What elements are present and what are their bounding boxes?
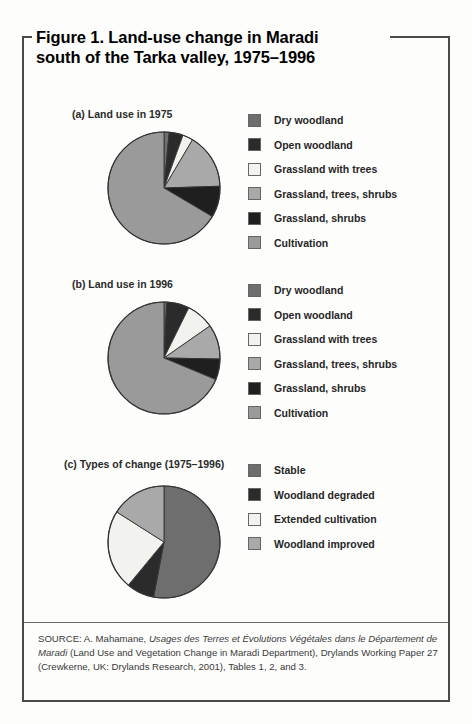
legend-a: Dry woodlandOpen woodlandGrassland with … — [248, 108, 397, 255]
legend-row: Grassland with trees — [248, 157, 397, 182]
figure-title: Figure 1. Land-use change in Maradi sout… — [36, 27, 386, 67]
source-divider — [24, 622, 448, 623]
legend-row: Open woodland — [248, 133, 397, 158]
legend-swatch-icon — [248, 537, 261, 550]
chart-b-caption: (b) Land use in 1996 — [72, 278, 173, 290]
pie-chart-b — [106, 300, 222, 416]
legend-label: Grassland, trees, shrubs — [274, 358, 397, 370]
source-rest: (Land Use and Vegetation Change in Marad… — [38, 647, 438, 672]
legend-label: Cultivation — [274, 237, 328, 249]
legend-swatch-icon — [248, 138, 261, 151]
legend-row: Woodland improved — [248, 532, 377, 557]
legend-label: Dry woodland — [274, 114, 343, 126]
legend-b: Dry woodlandOpen woodlandGrassland with … — [248, 278, 397, 425]
legend-row: Extended cultivation — [248, 507, 377, 532]
legend-swatch-icon — [248, 187, 261, 200]
legend-row: Grassland, trees, shrubs — [248, 352, 397, 377]
legend-swatch-icon — [248, 333, 261, 346]
legend-swatch-icon — [248, 382, 261, 395]
pie-chart-c — [106, 484, 222, 600]
legend-swatch-icon — [248, 357, 261, 370]
legend-swatch-icon — [248, 308, 261, 321]
legend-swatch-icon — [248, 114, 261, 127]
source-note: SOURCE: A. Mahamane, Usages des Terres e… — [38, 632, 440, 675]
legend-swatch-icon — [248, 488, 261, 501]
legend-c: StableWoodland degradedExtended cultivat… — [248, 458, 377, 556]
legend-row: Cultivation — [248, 231, 397, 256]
pie-chart-a — [106, 130, 222, 246]
legend-swatch-icon — [248, 464, 261, 477]
chart-a-caption: (a) Land use in 1975 — [72, 108, 172, 120]
pie-svg — [106, 130, 222, 246]
legend-row: Dry woodland — [248, 108, 397, 133]
figure-container: Figure 1. Land-use change in Maradi sout… — [0, 0, 472, 724]
legend-swatch-icon — [248, 163, 261, 176]
figure-title-line-2: south of the Tarka valley, 1975–1996 — [36, 47, 386, 67]
legend-label: Extended cultivation — [274, 513, 377, 525]
legend-label: Grassland with trees — [274, 163, 377, 175]
legend-label: Open woodland — [274, 139, 353, 151]
legend-swatch-icon — [248, 513, 261, 526]
legend-label: Grassland, shrubs — [274, 382, 366, 394]
legend-label: Open woodland — [274, 309, 353, 321]
legend-swatch-icon — [248, 236, 261, 249]
pie-svg — [106, 300, 222, 416]
legend-row: Grassland with trees — [248, 327, 397, 352]
chart-c-caption: (c) Types of change (1975–1996) — [64, 458, 224, 470]
source-prefix: SOURCE: A. Mahamane, — [38, 633, 149, 644]
legend-row: Grassland, shrubs — [248, 376, 397, 401]
pie-svg — [106, 484, 222, 600]
legend-row: Cultivation — [248, 401, 397, 426]
legend-swatch-icon — [248, 406, 261, 419]
legend-label: Grassland with trees — [274, 333, 377, 345]
legend-swatch-icon — [248, 212, 261, 225]
legend-label: Dry woodland — [274, 284, 343, 296]
legend-label: Woodland improved — [274, 538, 375, 550]
figure-title-line-1: Figure 1. Land-use change in Maradi — [36, 27, 386, 47]
legend-label: Woodland degraded — [274, 489, 375, 501]
legend-row: Open woodland — [248, 303, 397, 328]
legend-label: Grassland, shrubs — [274, 212, 366, 224]
legend-label: Grassland, trees, shrubs — [274, 188, 397, 200]
legend-row: Grassland, shrubs — [248, 206, 397, 231]
legend-label: Cultivation — [274, 407, 328, 419]
legend-row: Stable — [248, 458, 377, 483]
legend-swatch-icon — [248, 284, 261, 297]
legend-row: Woodland degraded — [248, 483, 377, 508]
legend-row: Dry woodland — [248, 278, 397, 303]
legend-row: Grassland, trees, shrubs — [248, 182, 397, 207]
legend-label: Stable — [274, 464, 306, 476]
